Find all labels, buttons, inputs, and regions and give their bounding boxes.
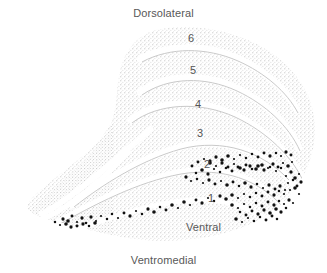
labeled-cell-dot xyxy=(272,203,275,206)
labeled-cell-dot xyxy=(255,202,258,205)
labeled-cell-dot xyxy=(233,163,235,165)
labeled-cell-dot xyxy=(200,201,203,204)
lgn-section-drawing xyxy=(0,0,327,273)
labeled-cell-dot xyxy=(262,208,265,211)
labeled-cell-dot xyxy=(289,170,292,173)
labeled-cell-dot xyxy=(260,163,264,167)
labeled-cell-dot xyxy=(128,214,131,217)
labeled-cell-dot xyxy=(291,161,293,163)
labeled-cell-dot xyxy=(225,183,229,187)
labeled-cell-dot xyxy=(232,181,235,184)
labeled-cell-dot xyxy=(249,206,252,209)
labeled-cell-dot xyxy=(261,195,264,198)
labeled-cell-dot xyxy=(262,187,264,189)
labeled-cell-dot xyxy=(59,224,61,226)
labeled-cell-dot xyxy=(268,211,272,215)
labeled-cell-dot xyxy=(202,182,204,184)
labeled-cell-dot xyxy=(284,150,287,153)
labeled-cell-dot xyxy=(284,189,286,191)
labeled-cell-dot xyxy=(245,164,248,167)
labeled-cell-dot xyxy=(100,215,102,217)
labeled-cell-dot xyxy=(66,219,70,223)
labeled-cell-dot xyxy=(276,218,279,221)
labeled-cell-dot xyxy=(292,179,295,182)
labeled-cell-dot xyxy=(146,207,149,210)
labeled-cell-dot xyxy=(224,197,228,201)
labeled-cell-dot xyxy=(218,194,221,197)
labeled-cell-dot xyxy=(81,222,84,225)
labeled-cell-dot xyxy=(261,205,264,208)
labeled-cell-dot xyxy=(238,185,241,188)
labeled-cell-dot xyxy=(274,207,278,211)
labeled-cell-dot xyxy=(265,219,268,222)
orientation-label-ventromedial: Ventromedial xyxy=(0,255,327,266)
labeled-cell-dot xyxy=(214,183,217,186)
labeled-cell-dot xyxy=(197,161,200,164)
labeled-cell-dot xyxy=(251,168,254,171)
labeled-cell-dot xyxy=(292,202,294,204)
labeled-cell-dot xyxy=(243,181,247,185)
labeled-cell-dot xyxy=(267,183,270,186)
labeled-cell-dot xyxy=(80,216,83,219)
labeled-cell-dot xyxy=(263,152,266,155)
labeled-cell-dot xyxy=(287,198,290,201)
labeled-cell-dot xyxy=(251,153,254,156)
labeled-cell-dot xyxy=(249,196,252,199)
labeled-cell-dot xyxy=(64,222,68,226)
labeled-cell-dot xyxy=(257,156,260,159)
labeled-cell-dot xyxy=(285,175,287,177)
lamina-label-1: 1 xyxy=(208,193,214,204)
labeled-cell-dot xyxy=(290,154,293,157)
labeled-cell-dot xyxy=(289,189,291,191)
labeled-cell-dot xyxy=(61,217,64,220)
labeled-cell-dot xyxy=(243,193,245,195)
labeled-cell-dot xyxy=(239,211,242,214)
labeled-cell-dot xyxy=(234,217,238,221)
labeled-cell-dot xyxy=(227,166,230,169)
labeled-cell-dot xyxy=(267,191,270,194)
labeled-cell-dot xyxy=(245,214,248,217)
labeled-cell-dot xyxy=(88,225,91,228)
labeled-cell-dot xyxy=(286,164,290,168)
labeled-cell-dot xyxy=(238,166,242,170)
labeled-cell-dot xyxy=(269,166,272,169)
labeled-cell-dot xyxy=(106,218,109,221)
labeled-cell-dot xyxy=(243,203,245,205)
labeled-cell-dot xyxy=(245,157,248,160)
labeled-cell-dot xyxy=(237,197,239,199)
labeled-cell-dot xyxy=(293,186,297,190)
labeled-cell-dot xyxy=(279,210,282,213)
labeled-cell-dot xyxy=(111,213,114,216)
labeled-cell-dot xyxy=(268,154,271,157)
labeled-cell-dot xyxy=(241,221,243,223)
labeled-cell-dot xyxy=(191,165,194,168)
labeled-cell-dot xyxy=(230,203,234,207)
labeled-cell-dot xyxy=(299,180,302,183)
labeled-cell-dot xyxy=(277,166,280,169)
labeled-cell-dot xyxy=(207,178,210,181)
lamina-label-6: 6 xyxy=(188,33,194,44)
labeled-cell-dot xyxy=(85,222,88,225)
labeled-cell-dot xyxy=(237,207,239,209)
labeled-cell-dot xyxy=(220,161,223,164)
lamina-label-2: 2 xyxy=(204,159,210,170)
lamina-label-5: 5 xyxy=(190,65,196,76)
labeled-cell-dot xyxy=(248,164,251,167)
labeled-cell-dot xyxy=(220,158,224,162)
labeled-cell-dot xyxy=(275,170,277,172)
labeled-cell-dot xyxy=(274,188,277,191)
labeled-cell-dot xyxy=(254,167,258,171)
labeled-cell-dot xyxy=(213,168,215,170)
labeled-cell-dot xyxy=(242,168,245,171)
labeled-cell-dot xyxy=(195,199,198,202)
labeled-cell-dot xyxy=(271,162,274,165)
labeled-cell-dot xyxy=(206,172,209,175)
labeled-cell-dot xyxy=(230,193,234,197)
labeled-cell-dot xyxy=(189,204,191,206)
labeled-cell-dot xyxy=(190,180,192,182)
labeled-cell-dot xyxy=(196,178,199,181)
labeled-cell-dot xyxy=(256,183,259,186)
labeled-cell-dot xyxy=(123,212,126,215)
labeled-cell-dot xyxy=(152,210,156,214)
labeled-cell-dot xyxy=(135,210,137,212)
